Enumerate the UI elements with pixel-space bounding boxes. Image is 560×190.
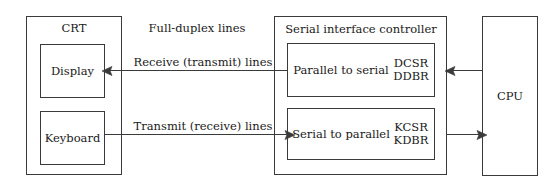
receive-arrowhead-icon: [101, 64, 115, 78]
crt-title-label: CRT: [62, 22, 87, 35]
dcsr-ddbr-registers-label: DCSRDDBR: [393, 57, 429, 83]
diagram-canvas: CRT Display Keyboard Serial interface co…: [0, 0, 560, 190]
full-duplex-lines-label: Full-duplex lines: [149, 22, 246, 35]
serial-to-parallel-label: Serial to parallel: [292, 128, 390, 141]
serial-interface-controller-title: Serial interface controller: [285, 23, 437, 36]
parallel-to-serial-label: Parallel to serial: [293, 64, 389, 77]
display-label: Display: [51, 65, 94, 78]
kcsr-kdbr-registers-label: KCSRKDBR: [394, 121, 429, 147]
cpu-to-controller-arrowhead-icon: [444, 64, 458, 78]
controller-to-cpu-arrowhead-icon: [474, 128, 488, 142]
receive-lines-label: Receive (transmit) lines: [134, 56, 273, 69]
keyboard-label: Keyboard: [45, 132, 101, 145]
receive-line-connector: [107, 70, 287, 71]
transmit-lines-label: Transmit (receive) lines: [134, 120, 273, 133]
cpu-label: CPU: [497, 90, 523, 103]
transmit-arrowhead-icon: [282, 128, 296, 142]
transmit-line-connector: [105, 134, 288, 135]
